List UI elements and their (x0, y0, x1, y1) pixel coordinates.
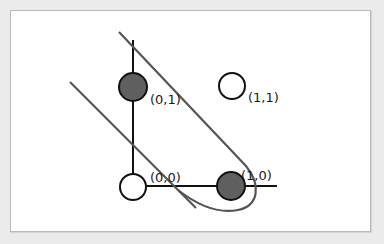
point-0-0 (120, 174, 146, 200)
label-0-1: (0,1) (150, 92, 181, 107)
label-1-1: (1,1) (248, 90, 279, 105)
point-1-1 (219, 73, 245, 99)
label-1-0: (1,0) (241, 168, 272, 183)
label-0-0: (0,0) (150, 170, 181, 185)
xor-diagram: (0,1) (1,1) (0,0) (1,0) (0, 0, 384, 244)
point-0-1 (119, 73, 147, 101)
